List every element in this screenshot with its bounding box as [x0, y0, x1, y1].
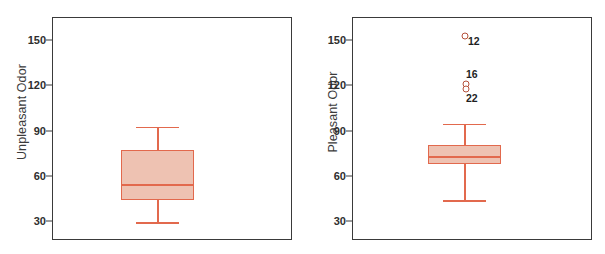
- whisker-lower-cap: [136, 222, 179, 224]
- box-plot-figure: Unpleasant Odor 150 120 90 60 30: [0, 0, 605, 254]
- whisker-upper-stem: [157, 127, 159, 150]
- plot-frame-pleasant: 12 16 22: [352, 17, 592, 240]
- plot-area-pleasant: 12 16 22: [353, 18, 591, 239]
- panel-unpleasant-odor: Unpleasant Odor 150 120 90 60 30: [0, 0, 302, 254]
- y-tick-label-150: 150: [312, 34, 346, 46]
- y-tick-label-120: 120: [312, 79, 346, 91]
- whisker-upper-cap: [443, 124, 486, 126]
- box-iqr-unpleasant: [121, 150, 194, 201]
- outlier-label-22: 22: [466, 92, 478, 104]
- outlier-label-12: 12: [468, 35, 480, 47]
- y-tick-label-30: 30: [312, 215, 346, 227]
- whisker-upper-stem: [464, 124, 466, 145]
- whisker-lower-cap: [443, 200, 486, 202]
- outlier-label-16: 16: [466, 68, 478, 80]
- median-line-pleasant: [428, 156, 501, 158]
- y-tick-label-60: 60: [312, 170, 346, 182]
- y-tick-label-120: 120: [12, 79, 46, 91]
- plot-area-unpleasant: [53, 18, 291, 239]
- y-tick-label-60: 60: [12, 170, 46, 182]
- plot-frame-unpleasant: [52, 17, 292, 240]
- median-line-unpleasant: [121, 184, 194, 186]
- whisker-lower-stem: [464, 163, 466, 200]
- y-tick-label-90: 90: [12, 125, 46, 137]
- box-iqr-pleasant: [428, 145, 501, 165]
- y-tick-label-30: 30: [12, 215, 46, 227]
- y-tick-label-150: 150: [12, 34, 46, 46]
- whisker-lower-stem: [157, 200, 159, 222]
- whisker-upper-cap: [136, 127, 179, 129]
- y-tick-label-90: 90: [312, 125, 346, 137]
- panel-pleasant-odor: Pleasant Odor 150 120 90 60 30 12 16: [303, 0, 605, 254]
